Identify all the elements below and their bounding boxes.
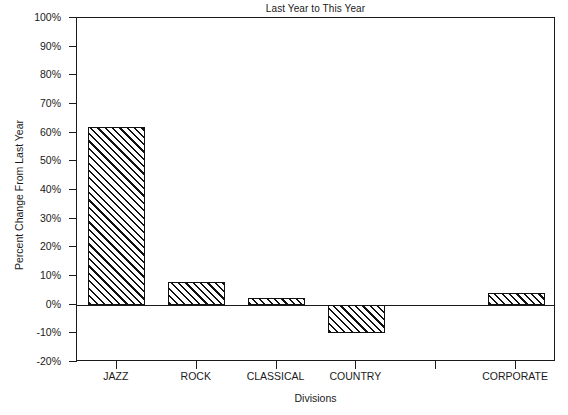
x-axis-title: Divisions — [76, 392, 555, 404]
y-axis-tick — [69, 304, 77, 305]
x-axis-tick-label: CORPORATE — [482, 370, 548, 382]
y-axis-tick — [69, 46, 77, 47]
bar-corporate — [488, 293, 545, 304]
x-axis-tick — [515, 361, 516, 369]
y-axis-tick — [69, 74, 77, 75]
bar-rock — [168, 282, 225, 305]
x-axis-tick-label: CLASSICAL — [247, 370, 305, 382]
y-axis-tick-label: 60% — [0, 126, 66, 138]
y-axis-tick — [69, 132, 77, 133]
x-axis-tick-label: JAZZ — [103, 370, 128, 382]
bar-jazz — [88, 127, 145, 305]
y-axis-tick — [69, 17, 77, 18]
y-axis-tick-label: 100% — [0, 11, 66, 23]
y-axis-tick — [69, 246, 77, 247]
y-axis-tick-label: 80% — [0, 68, 66, 80]
x-axis-tick — [435, 361, 436, 369]
x-axis-tick — [355, 361, 356, 369]
y-axis-tick-label: -20% — [0, 355, 66, 367]
zero-baseline — [77, 305, 555, 306]
x-axis-tick — [116, 361, 117, 369]
y-axis-tick — [69, 361, 77, 362]
x-axis-tick-label: ROCK — [181, 370, 211, 382]
chart-title: Last Year to This Year — [76, 3, 555, 14]
y-axis-tick-label: 10% — [0, 269, 66, 281]
y-axis-tick — [69, 218, 77, 219]
y-axis-tick-label: 40% — [0, 183, 66, 195]
bar-classical — [248, 298, 305, 305]
y-axis-tick-label: 90% — [0, 40, 66, 52]
y-axis-tick — [69, 103, 77, 104]
x-axis-tick-label: COUNTRY — [330, 370, 382, 382]
y-axis-tick-label: 30% — [0, 212, 66, 224]
bar-country — [328, 305, 385, 334]
x-axis-tick — [196, 361, 197, 369]
plot-area — [76, 17, 555, 361]
y-axis-tick-label: 20% — [0, 240, 66, 252]
y-axis-tick-label: 50% — [0, 154, 66, 166]
y-axis-tick-label: 0% — [0, 298, 66, 310]
x-axis-tick — [276, 361, 277, 369]
y-axis-tick — [69, 275, 77, 276]
bar-chart: Last Year to This Year Percent Change Fr… — [0, 0, 568, 415]
y-axis-tick — [69, 160, 77, 161]
y-axis-tick — [69, 189, 77, 190]
y-axis-tick-label: 70% — [0, 97, 66, 109]
y-axis-tick — [69, 332, 77, 333]
y-axis-tick-label: -10% — [0, 326, 66, 338]
